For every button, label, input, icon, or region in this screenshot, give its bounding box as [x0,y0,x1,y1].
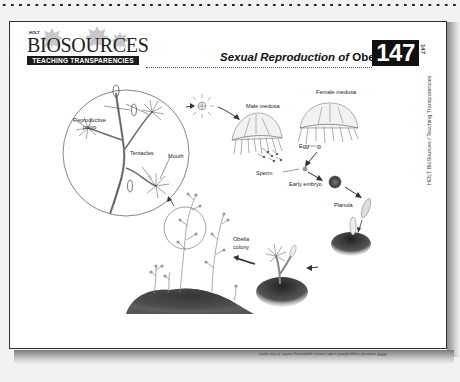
settled-planula [331,217,371,256]
obelia-life-cycle-diagram [0,0,460,382]
label-female-medusa: Female medusa [316,89,356,95]
young-polyp [256,244,308,307]
label-mouth: Mouth [168,153,184,159]
label-early-embryo: Early embryo [289,181,322,187]
label-colony: colony [233,244,249,250]
label-male-medusa: Male medusa [246,103,280,109]
female-medusa [298,103,358,144]
arrow-icon [190,103,195,109]
obelia-colony [126,192,254,314]
label-planula: Planula [334,202,353,208]
arrow-icon [236,258,255,264]
label-sperm: Sperm [256,170,272,176]
magnified-polyp-view [63,85,189,216]
arrow-icon [233,114,240,120]
label-obelia-italic: Obelia [233,236,249,242]
copyright-note: HRW material copyrighted under notice ap… [258,352,387,357]
planula [359,197,372,218]
early-embryo [329,176,341,188]
label-egg: Egg [299,143,309,149]
label-reproductive-polyp: Reproductive [73,117,106,123]
label-tentacles: Tentacles [130,150,154,156]
egg [317,145,321,149]
label-reproductive-polyp-2: polyp [83,124,96,130]
